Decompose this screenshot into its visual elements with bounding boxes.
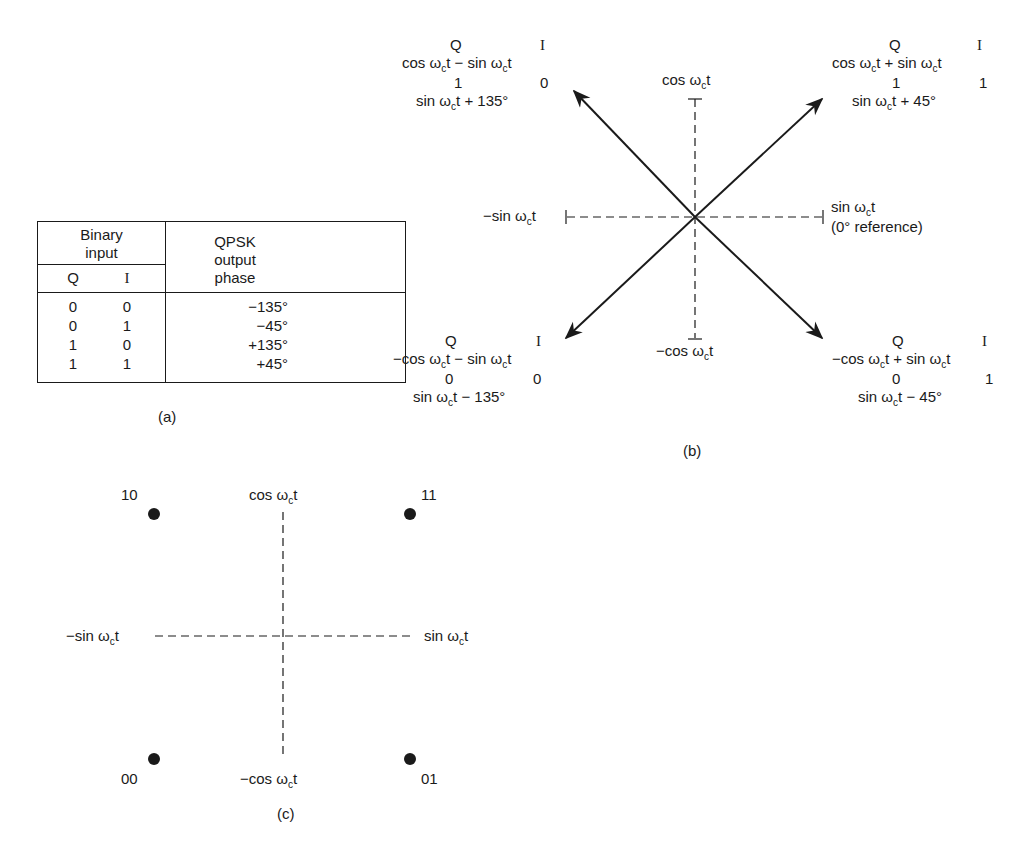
constellation-point-10 <box>148 508 160 520</box>
phasor-label-00: Q I −cos ωct − sin ωct 0 0 sin ωct − 135… <box>393 332 573 408</box>
axis-label-neg-sin: −sin ωct <box>483 207 536 227</box>
phasor-arrow-10 <box>574 91 695 217</box>
constellation-axis-sin: sin ωct <box>424 627 468 647</box>
constellation-label-01: 01 <box>421 770 438 788</box>
constellation-axis-cos: cos ωct <box>249 486 297 506</box>
phasor-label-01: Q I −cos ωct + sin ωct 0 1 sin ωct − 45° <box>832 332 1016 408</box>
constellation-axis-neg-sin: −sin ωct <box>66 627 119 647</box>
constellation-point-01 <box>404 753 416 765</box>
axis-label-neg-cos: −cos ωct <box>656 342 713 362</box>
axis-label-sin-reference: sin ωct (0° reference) <box>831 198 923 236</box>
phasor-arrows <box>566 91 822 338</box>
axis-label-cos: cos ωct <box>662 71 710 91</box>
constellation-label-11: 11 <box>421 486 437 504</box>
constellation-axis-neg-cos: −cos ωct <box>240 770 297 790</box>
constellation-point-00 <box>148 753 160 765</box>
phasor-label-11: Q I cos ωct + sin ωct 1 1 sin ωct + 45° <box>832 36 1012 112</box>
constellation-label-00: 00 <box>121 770 138 788</box>
phasor-arrow-00 <box>566 217 695 338</box>
reference-note: (0° reference) <box>831 218 923 236</box>
phasor-label-10: Q I cos ωct − sin ωct 1 0 sin ωct + 135° <box>402 36 572 112</box>
caption-c: (c) <box>277 805 295 822</box>
phasor-diagram-graphics <box>0 0 1016 856</box>
phasor-arrow-11 <box>695 99 822 217</box>
phasor-arrow-01 <box>695 217 822 338</box>
constellation-label-10: 10 <box>121 486 138 504</box>
caption-b: (b) <box>683 442 701 459</box>
constellation-axes <box>155 512 410 758</box>
constellation-point-11 <box>404 508 416 520</box>
